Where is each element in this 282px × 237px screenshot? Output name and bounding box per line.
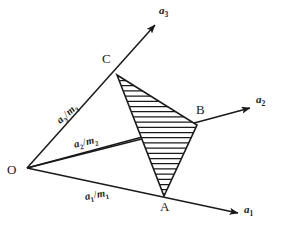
- axis-label-a1: a1: [244, 204, 253, 215]
- vertex-label-A: A: [160, 200, 169, 213]
- axis-label-a1-sub: 1: [250, 209, 254, 218]
- vertex-label-B: B: [196, 103, 205, 116]
- vertex-label-C: C: [102, 52, 111, 65]
- vertex-label-O: O: [7, 163, 16, 176]
- intercept-label-a1-m1: a1/m1: [84, 188, 109, 202]
- axis-label-a2: a2: [256, 94, 265, 105]
- axis-label-a3-base: a: [159, 4, 165, 16]
- axis-label-a2-base: a: [256, 93, 262, 105]
- axis-label-a2-sub: 2: [262, 99, 266, 108]
- axis-label-a3-sub: 3: [165, 10, 169, 19]
- axis-line-a1: [27, 168, 238, 213]
- crystal-axes-diagram: [0, 0, 282, 237]
- axis-label-a3: a3: [159, 5, 168, 16]
- axis-label-a1-base: a: [244, 203, 250, 215]
- intercept-a1-num-sub: 1: [90, 195, 95, 203]
